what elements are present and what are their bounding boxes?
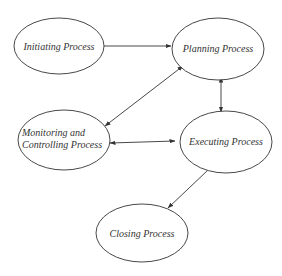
edge-planning-monitoring bbox=[105, 66, 183, 126]
label-monitoring-line1: Monitoring and bbox=[21, 127, 86, 138]
node-monitoring: Monitoring and Controlling Process bbox=[18, 110, 110, 170]
process-diagram: Initiating Process Planning Process Moni… bbox=[0, 0, 282, 276]
label-monitoring-line2: Controlling Process bbox=[22, 139, 102, 150]
label-executing: Executing Process bbox=[188, 136, 263, 147]
edge-monitoring-executing bbox=[110, 141, 175, 143]
edge-executing-to-closing bbox=[168, 170, 208, 208]
label-planning: Planning Process bbox=[182, 43, 254, 54]
node-closing: Closing Process bbox=[96, 204, 188, 262]
label-initiating: Initiating Process bbox=[22, 41, 94, 52]
node-executing: Executing Process bbox=[180, 111, 272, 173]
node-initiating: Initiating Process bbox=[14, 18, 104, 74]
node-planning: Planning Process bbox=[172, 18, 264, 80]
label-closing: Closing Process bbox=[110, 228, 175, 239]
